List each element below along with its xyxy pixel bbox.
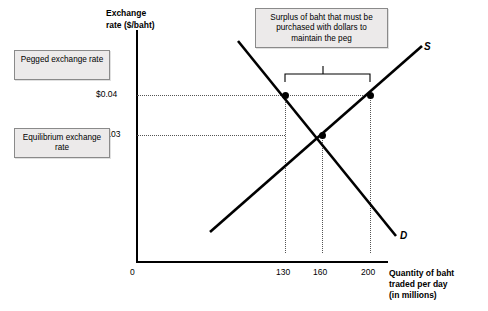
x-tick-label-130: 130 xyxy=(276,267,290,277)
marker-q130-pegged xyxy=(282,92,289,99)
surplus-callout: Surplus of baht that must be purchased w… xyxy=(255,8,388,48)
x-tick-label-0: 0 xyxy=(130,267,135,277)
chart-figure: Exchange rate ($/baht) Quantity of baht … xyxy=(0,0,488,311)
marker-equilibrium xyxy=(319,132,326,139)
surplus-bracket xyxy=(285,66,370,82)
x-tick-label-160: 160 xyxy=(313,267,327,277)
marker-q200-pegged xyxy=(367,92,374,99)
pegged-rate-callout: Pegged exchange rate xyxy=(14,50,110,80)
demand-curve-line xyxy=(238,41,396,236)
x-tick-label-200: 200 xyxy=(361,267,375,277)
supply-curve-label: S xyxy=(424,41,431,53)
equilibrium-rate-callout: Equilibrium exchange rate xyxy=(14,128,110,158)
demand-curve-label: D xyxy=(400,230,407,242)
y-tick-label-040: $0.04 xyxy=(96,89,117,99)
